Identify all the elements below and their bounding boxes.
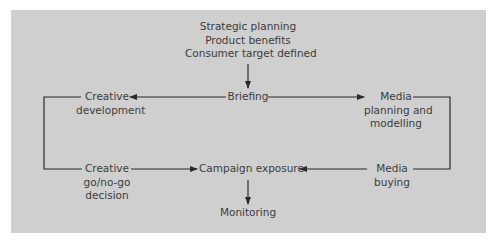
node-text: go/no-go [80, 176, 134, 190]
node-text: Product benefits [185, 34, 311, 48]
node-text: Strategic planning [185, 20, 311, 34]
node-text: development [76, 104, 138, 118]
node-text: modelling [364, 117, 428, 131]
node-monitoring: Monitoring [213, 206, 283, 220]
node-creative-decision: Creative go/no-go decision [80, 162, 134, 203]
node-text: decision [80, 189, 134, 203]
node-text: buying [368, 176, 416, 190]
node-media-planning: Media planning and modelling [364, 90, 428, 131]
node-text: Consumer target defined [185, 47, 311, 61]
node-text: Briefing [224, 90, 272, 104]
node-campaign-exposure: Campaign exposure [199, 162, 299, 176]
node-text: Creative [76, 90, 138, 104]
node-text: planning and [364, 104, 428, 118]
node-text: Campaign exposure [199, 162, 299, 176]
node-briefing: Briefing [224, 90, 272, 104]
node-inputs: Strategic planning Product benefits Cons… [185, 20, 311, 61]
node-creative-development: Creative development [76, 90, 138, 117]
node-text: Monitoring [213, 206, 283, 220]
node-media-buying: Media buying [368, 162, 416, 189]
node-text: Creative [80, 162, 134, 176]
node-text: Media [364, 90, 428, 104]
node-text: Media [368, 162, 416, 176]
